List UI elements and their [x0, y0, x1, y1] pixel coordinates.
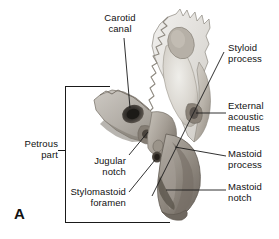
anatomical-figure-panel-a: Carotid canal Styloid process External a…	[0, 0, 279, 239]
label-mastoid-process: Mastoid process	[228, 148, 278, 170]
label-petrous-part: Petrous part	[4, 138, 58, 160]
label-mastoid-notch: Mastoid notch	[228, 181, 278, 203]
label-external-acoustic-meatus: External acoustic meatus	[228, 100, 279, 133]
label-styloid-process: Styloid process	[228, 42, 278, 64]
label-carotid-canal: Carotid canal	[82, 12, 158, 34]
leader-stylomastoid	[129, 160, 155, 192]
stylomastoid-foramen-core	[154, 154, 159, 160]
panel-letter-a: A	[14, 205, 25, 222]
label-jugular-notch: Jugular notch	[66, 155, 126, 177]
label-stylomastoid-foramen: Stylomastoid foramen	[52, 186, 126, 208]
